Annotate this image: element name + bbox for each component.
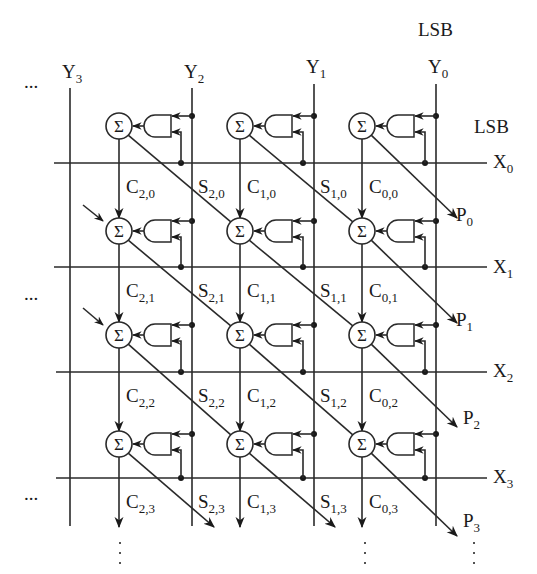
p1-label: P1 [456,309,473,334]
and-gate-icon [265,220,292,242]
adder-cell: ΣC2,2S2,2 [106,322,231,435]
and-gate-icon [144,324,171,346]
adder-cell: ΣC1,2S1,2 [227,322,353,435]
carry-label: C0,0 [369,176,398,201]
adder-cell: ΣC0,3 [349,431,457,536]
y-input-labels: Y3 Y2 Y1 Y0 [62,56,448,86]
and-gate-icon [265,324,292,346]
carry-label: C1,1 [247,280,276,305]
p2-label: P2 [463,407,480,432]
x-input-labels: X0 X1 X2 X3 [493,151,513,491]
y3-label: Y3 [62,61,82,86]
y0-label: Y0 [428,56,448,81]
sum-label: S1,3 [320,491,347,516]
lsb-label-y: LSB [418,19,453,40]
and-gate-icon [387,220,414,242]
adder-cell: ΣC2,1S2,1 [106,218,231,326]
x0-label: X0 [493,151,513,176]
x1-label: X1 [493,256,513,281]
sum-label: S2,2 [198,385,225,410]
carry-label: C1,0 [247,176,276,201]
ellipsis-bottom-left: ... [24,483,38,504]
carry-label: C2,2 [126,385,155,410]
product-labels: P0 P1 P2 P3 [456,204,480,535]
adder-cell: ΣC2,0S2,0 [106,113,231,222]
ellipsis-mid-left: ... [24,283,38,304]
sigma-symbol: Σ [235,435,245,454]
carry-label: C2,1 [126,280,155,305]
p3-label: P3 [463,510,480,535]
and-gate-icon [387,115,414,137]
and-gate-icon [265,433,292,455]
sigma-symbol: Σ [114,222,124,241]
sigma-symbol: Σ [114,117,124,136]
sigma-symbol: Σ [357,435,367,454]
carry-in-arrow-row2 [83,308,103,325]
and-gate-icon [144,115,171,137]
adder-cell: ΣC0,2 [349,322,457,431]
y2-label: Y2 [184,61,204,86]
x3-label: X3 [493,466,513,491]
y-input-lines [70,84,436,526]
adder-cell: ΣC1,3S1,3 [227,431,347,527]
sigma-symbol: Σ [235,326,245,345]
x2-label: X2 [493,360,513,385]
sigma-symbol: Σ [357,117,367,136]
carry-label: C0,3 [369,491,398,516]
bottom-ellipses [119,542,475,564]
adder-cell: ΣC1,0S1,0 [227,113,353,222]
y1-label: Y1 [306,56,326,81]
carry-label: C2,0 [126,176,155,201]
and-gate-icon [144,433,171,455]
sigma-symbol: Σ [357,326,367,345]
adder-cells: ΣC2,0S2,0ΣC1,0S1,0ΣC0,0ΣC2,1S2,1ΣC1,1S1,… [106,113,457,536]
adder-cell: ΣC0,1 [349,218,457,323]
sum-label: S1,2 [320,385,347,410]
and-gate-icon [265,115,292,137]
carry-label: C1,2 [247,385,276,410]
adder-cell: ΣC1,1S1,1 [227,218,353,326]
sigma-symbol: Σ [357,222,367,241]
adder-cell: ΣC2,3S2,3 [106,431,225,527]
p0-label: P0 [456,204,473,229]
adder-cell: ΣC0,0 [349,113,457,218]
carry-label: C2,3 [126,491,155,516]
and-gate-icon [144,220,171,242]
sigma-symbol: Σ [114,326,124,345]
carry-label: C0,2 [369,385,398,410]
sum-label: S2,3 [198,491,225,516]
sigma-symbol: Σ [235,117,245,136]
sigma-symbol: Σ [235,222,245,241]
carry-in-arrow-row1 [83,205,103,221]
lsb-label-x: LSB [474,116,509,137]
ellipsis-top-left: ... [24,71,38,92]
sigma-symbol: Σ [114,435,124,454]
carry-label: C1,3 [247,491,276,516]
and-gate-icon [387,433,414,455]
array-multiplier-diagram: LSB LSB ... ... ... Y3 Y2 Y1 Y0 X0 X1 X2… [0,0,537,574]
and-gate-icon [387,324,414,346]
carry-label: C0,1 [369,280,398,305]
